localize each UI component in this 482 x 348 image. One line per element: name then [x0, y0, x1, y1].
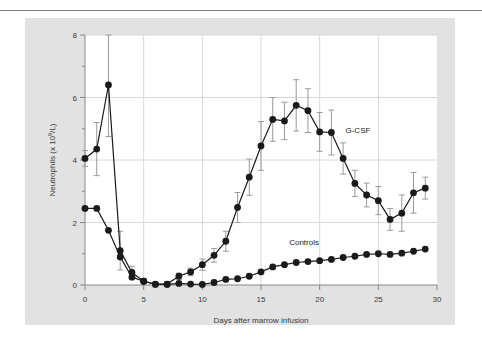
data-point-marker: [82, 155, 89, 162]
data-point-marker: [375, 250, 382, 257]
y-axis-tick-label: 8: [73, 31, 78, 40]
data-point-marker: [199, 261, 206, 268]
data-point-marker: [305, 258, 312, 265]
data-point-marker: [351, 253, 358, 260]
series-label-g-csf: G-CSF: [345, 126, 370, 135]
data-point-marker: [222, 276, 229, 283]
data-point-marker: [175, 273, 182, 280]
data-point-marker: [340, 155, 347, 162]
data-point-marker: [387, 251, 394, 258]
data-point-marker: [246, 174, 253, 181]
x-axis-tick-label: 5: [141, 295, 146, 304]
x-axis-tick-label: 20: [315, 295, 324, 304]
data-point-marker: [246, 273, 253, 280]
data-point-marker: [117, 253, 124, 260]
data-point-marker: [269, 263, 276, 270]
data-point-marker: [258, 268, 265, 275]
data-point-marker: [398, 250, 405, 257]
data-point-marker: [363, 251, 370, 258]
data-point-marker: [129, 274, 136, 281]
data-point-marker: [164, 281, 171, 288]
top-horizontal-rule: [0, 10, 482, 11]
series-label-controls: Controls: [289, 238, 319, 247]
figure-root: 02468051015202530Days after marrow infus…: [0, 0, 482, 348]
y-axis-title: Neutrophils (x 109/L): [47, 123, 57, 196]
data-point-marker: [105, 227, 112, 234]
data-point-marker: [328, 256, 335, 263]
data-point-marker: [199, 281, 206, 288]
data-point-marker: [222, 238, 229, 245]
y-axis-tick-label: 2: [73, 219, 78, 228]
data-point-marker: [82, 205, 89, 212]
data-point-marker: [363, 192, 370, 199]
data-point-marker: [281, 118, 288, 125]
data-point-marker: [293, 102, 300, 109]
data-point-marker: [328, 129, 335, 136]
data-point-marker: [351, 180, 358, 187]
data-point-marker: [234, 204, 241, 211]
data-point-marker: [140, 278, 147, 285]
chart-panel: 02468051015202530Days after marrow infus…: [25, 18, 455, 325]
data-point-marker: [258, 143, 265, 150]
data-point-marker: [422, 246, 429, 253]
y-axis-tick-label: 6: [73, 94, 78, 103]
data-point-marker: [375, 197, 382, 204]
y-axis-tick-label: 4: [73, 156, 78, 165]
x-axis-tick-label: 30: [433, 295, 442, 304]
x-axis-tick-label: 10: [198, 295, 207, 304]
data-point-marker: [340, 254, 347, 261]
neutrophil-recovery-line-chart: 02468051015202530Days after marrow infus…: [25, 18, 455, 325]
x-axis-title: Days after marrow infusion: [213, 316, 308, 325]
data-point-marker: [410, 248, 417, 255]
data-point-marker: [152, 281, 159, 288]
data-point-marker: [93, 146, 100, 153]
data-point-marker: [316, 257, 323, 264]
x-axis-tick-label: 25: [374, 295, 383, 304]
data-point-marker: [211, 279, 218, 286]
data-point-marker: [234, 275, 241, 282]
data-point-marker: [293, 259, 300, 266]
x-axis-tick-label: 0: [83, 295, 88, 304]
data-point-marker: [269, 116, 276, 123]
data-point-marker: [93, 205, 100, 212]
data-point-marker: [305, 107, 312, 114]
data-point-marker: [175, 280, 182, 287]
data-point-marker: [105, 82, 112, 89]
data-point-marker: [410, 189, 417, 196]
data-point-marker: [422, 185, 429, 192]
data-point-marker: [187, 281, 194, 288]
data-point-marker: [387, 216, 394, 223]
data-point-marker: [281, 261, 288, 268]
data-point-marker: [211, 252, 218, 259]
x-axis-tick-label: 15: [257, 295, 266, 304]
y-axis-tick-label: 0: [73, 281, 78, 290]
data-point-marker: [398, 210, 405, 217]
data-point-marker: [316, 128, 323, 135]
data-point-marker: [187, 268, 194, 275]
